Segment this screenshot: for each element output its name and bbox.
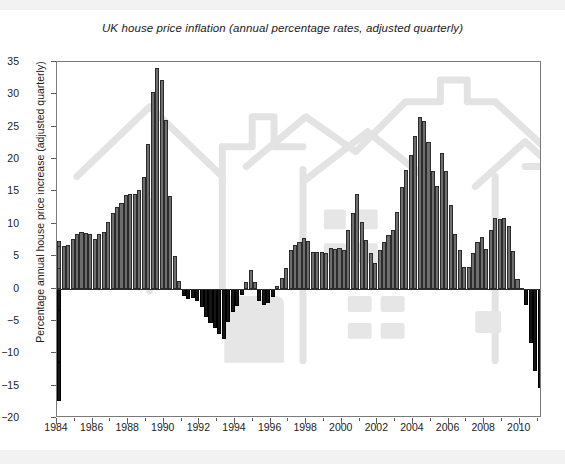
y-axis-tick-label: 5 [0,249,19,261]
bar [386,235,390,289]
bar [329,248,333,289]
bar [146,144,150,289]
x-axis-tick-mark [92,418,93,424]
y-axis-label: Percentage annual house price increase (… [34,22,46,382]
bar [271,289,275,297]
bar [435,186,439,288]
bar [222,289,226,339]
y-axis-tick-label: 20 [0,152,19,164]
x-axis-minor-tick-mark [430,418,431,421]
bar [515,279,519,289]
bar [418,117,422,289]
bar [360,222,364,289]
x-axis-minor-tick-mark [252,418,253,421]
bar [151,92,155,288]
bar [164,120,168,288]
bar-series [57,62,540,416]
y-axis-tick-mark [51,190,56,191]
chart-title: UK house price inflation (annual percent… [0,22,565,34]
bar [124,195,128,289]
y-axis-tick-label: −5 [0,314,19,326]
y-axis-tick-mark [51,126,56,127]
x-axis-minor-tick-mark [145,418,146,421]
y-axis-tick-mark [51,385,56,386]
bar [137,190,141,289]
x-axis-minor-tick-mark [109,418,110,421]
y-axis-tick-mark [51,223,56,224]
bar [302,238,306,288]
bar [289,250,293,289]
bar [369,253,373,289]
bar [79,232,83,289]
bar [168,196,172,289]
y-axis-tick-mark [51,352,56,353]
x-axis-minor-tick-mark [287,418,288,421]
bar [324,253,328,289]
y-axis-tick-label: −15 [0,379,19,391]
x-axis-minor-tick-mark [359,418,360,421]
x-axis-tick-mark [234,418,235,424]
bar [71,239,75,288]
bar [195,289,199,302]
bar [66,245,70,288]
y-axis-tick-label: −10 [0,346,19,358]
bar [262,289,266,306]
bar [57,268,61,288]
bar [346,230,350,289]
x-axis-tick-mark [163,418,164,424]
zero-baseline [57,289,540,290]
bar [133,194,137,289]
x-axis-tick-mark [412,418,413,424]
bar [444,171,448,288]
bar [498,219,502,289]
y-axis-tick-label: 10 [0,217,19,229]
bar [177,281,181,288]
bar [97,234,101,288]
bar [395,212,399,288]
bar [284,268,288,288]
chart-figure: UK house price inflation (annual percent… [0,0,565,464]
x-axis-tick-mark [270,418,271,424]
bar [115,207,119,289]
x-axis-minor-tick-mark [465,418,466,421]
bar [533,289,537,371]
x-axis-tick-mark [127,418,128,424]
bar [213,289,217,328]
bar [524,289,528,306]
bar [93,239,97,289]
bar [306,241,310,288]
x-axis-minor-tick-mark [216,418,217,421]
x-axis-minor-tick-mark [74,418,75,421]
bar [467,267,471,288]
bar [293,245,297,289]
bar [462,267,466,288]
y-axis-tick-mark [51,255,56,256]
bar [337,248,341,289]
bottom-edge-band [0,450,565,464]
x-axis-minor-tick-mark [501,418,502,421]
x-axis-tick-mark [198,418,199,424]
bar [502,218,506,289]
bar [266,289,270,304]
bar [280,278,284,288]
plot-area [56,61,541,417]
bar [400,187,404,289]
bar [320,252,324,288]
bar [173,256,177,289]
bar [155,68,159,288]
bar [311,252,315,288]
bar [57,289,61,312]
bar [382,242,386,289]
bar [128,194,132,289]
x-axis-tick-mark [448,418,449,424]
bar [378,250,382,289]
y-axis-tick-label: 35 [0,55,19,67]
bar [364,240,368,289]
bar [440,153,444,288]
bar [208,289,212,323]
y-axis-tick-mark [51,320,56,321]
bar [404,170,408,288]
y-axis-tick-label: 30 [0,87,19,99]
y-axis-tick-label: −20 [0,411,19,423]
x-axis-minor-tick-mark [537,418,538,421]
